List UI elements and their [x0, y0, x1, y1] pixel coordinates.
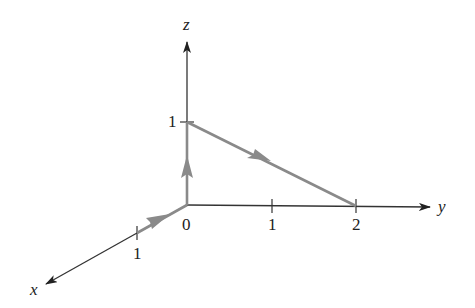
closed-path — [137, 122, 356, 233]
y-tick-label-2: 2 — [352, 216, 361, 233]
y-axis-label: y — [438, 198, 446, 215]
axes-diagram — [0, 0, 475, 308]
x-axis-label: x — [30, 281, 38, 298]
y-tick-label-1: 1 — [268, 216, 277, 233]
x-tick-label-1: 1 — [133, 245, 142, 262]
z-tick-label-1: 1 — [168, 113, 177, 130]
origin-label: 0 — [182, 216, 191, 233]
z-axis-label: z — [183, 16, 190, 33]
y-axis — [187, 205, 430, 207]
